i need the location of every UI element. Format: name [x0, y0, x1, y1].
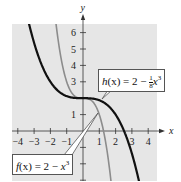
y-axis-arrow-icon [81, 14, 85, 20]
y-axis-label: y [80, 2, 86, 13]
x-tick-label: −1 [61, 136, 72, 147]
y-tick-label: 1 [71, 109, 76, 120]
x-axis-arrow-icon [159, 129, 165, 133]
y-tick-label: 4 [71, 60, 76, 71]
x-tick-label: −3 [29, 136, 40, 147]
y-tick-label: 3 [71, 76, 76, 87]
f-exponent: 3 [66, 159, 70, 167]
h-exponent: 3 [158, 74, 162, 82]
x-tick-label: −2 [45, 136, 56, 147]
f-function-label: f(x) = 2 − x3 [12, 154, 73, 175]
x-axis-label: x [168, 125, 174, 136]
y-tick-label: 6 [71, 27, 76, 38]
x-tick-label: 4 [146, 136, 151, 147]
h-function-label: h(x) = 2 − 18x3 [98, 69, 165, 92]
y-tick-label: 5 [71, 44, 76, 55]
x-tick-label: 1 [97, 136, 102, 147]
x-tick-label: 2 [113, 136, 118, 147]
f-expr: (x) = 2 − [19, 160, 61, 172]
h-expr: (x) = 2 − [108, 75, 150, 87]
x-tick-label: −4 [12, 136, 23, 147]
